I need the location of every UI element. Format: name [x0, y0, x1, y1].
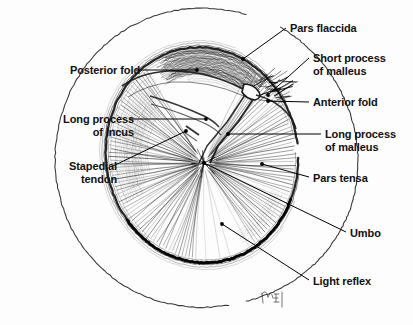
label-short-process-of-malleus: Short process of malleus	[313, 52, 386, 77]
leader-dot-long-process-of-malleus	[226, 132, 230, 136]
short-process-of-malleus	[242, 84, 260, 100]
leader-line-short-process-of-malleus	[268, 58, 309, 95]
radial-fiber	[120, 167, 192, 197]
leader-dot-pars-tensa	[260, 162, 264, 166]
radial-fiber	[203, 169, 206, 260]
artist-signature	[262, 292, 282, 307]
label-light-reflex: Light reflex	[313, 275, 371, 288]
leader-dot-umbo	[202, 161, 206, 165]
label-posterior-fold: Posterior fold	[70, 64, 140, 77]
label-anterior-fold: Anterior fold	[313, 96, 378, 109]
pars-flaccida	[153, 47, 299, 102]
leader-dot-anterior-fold	[266, 99, 270, 103]
radial-fiber	[125, 94, 195, 155]
label-umbo: Umbo	[350, 227, 381, 240]
label-pars-flaccida: Pars flaccida	[290, 22, 357, 35]
leader-dot-stapedial-tendon	[184, 129, 188, 133]
radial-fiber	[211, 112, 287, 158]
flaccida-shadow	[282, 92, 290, 96]
signature-stroke	[262, 293, 263, 303]
leader-dot-pars-flaccida	[241, 57, 245, 61]
label-stapedial-tendon: Stapedial tendon	[69, 160, 117, 185]
malleus-handle-edge	[210, 92, 258, 163]
label-long-process-of-incus: Long process of incus	[63, 113, 134, 138]
label-pars-tensa: Pars tensa	[313, 172, 368, 185]
stapedial-tendon	[186, 126, 199, 135]
anatomical-figure: Pars flaccidaShort process of malleusAnt…	[0, 0, 413, 325]
radial-fiber	[215, 95, 277, 154]
leader-dot-short-process-of-malleus	[266, 93, 270, 97]
radial-fiber	[137, 169, 198, 227]
leader-dot-light-reflex	[220, 222, 224, 226]
posterior-fold-inner	[128, 82, 244, 97]
radial-fiber	[209, 130, 292, 162]
leader-line-light-reflex	[222, 224, 309, 280]
label-long-process-of-malleus: Long process of malleus	[325, 128, 396, 153]
leader-line-pars-flaccida	[243, 28, 286, 59]
leader-dot-posterior-fold	[195, 68, 199, 72]
radial-fiber	[209, 166, 282, 213]
radial-fiber	[211, 115, 288, 158]
leader-dot-long-process-of-incus	[204, 117, 208, 121]
radial-fiber	[109, 145, 199, 164]
